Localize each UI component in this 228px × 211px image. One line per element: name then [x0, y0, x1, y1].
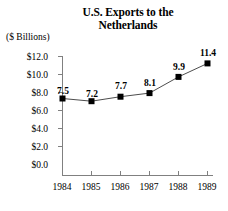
- plot-area: [0, 0, 228, 211]
- data-label-1988: 9.9: [164, 62, 194, 72]
- data-point-1989: [205, 60, 211, 66]
- data-point-1988: [176, 74, 182, 80]
- data-point-1984: [60, 96, 66, 102]
- data-point-1985: [89, 98, 95, 104]
- data-point-1986: [118, 94, 124, 100]
- chart-container: U.S. Exports to the Netherlands ($ Billi…: [0, 0, 228, 211]
- data-label-1987: 8.1: [135, 78, 165, 88]
- data-point-1987: [147, 90, 153, 96]
- data-label-1989: 11.4: [193, 48, 223, 58]
- data-label-1986: 7.7: [106, 81, 136, 91]
- data-label-1985: 7.2: [77, 89, 107, 99]
- x-tick-label-1989: 1989: [187, 182, 227, 192]
- data-label-1984: 7.5: [48, 86, 78, 96]
